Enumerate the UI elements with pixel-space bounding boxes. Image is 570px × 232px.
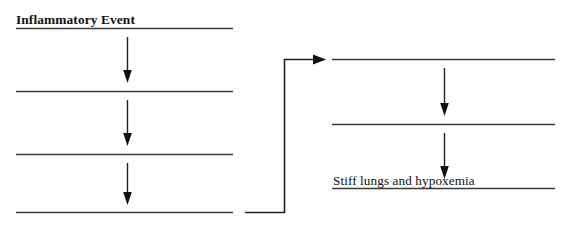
step-7-label: Stiff lungs and hypoxemia (333, 174, 475, 187)
flowchart-diagram: Inflammatory Event Stiff lungs and hypox… (0, 0, 570, 232)
down-arrow-icon-left-1 (123, 37, 132, 83)
down-arrow-icon-left-2 (123, 100, 132, 146)
flowchart-canvas (0, 0, 570, 232)
down-arrow-icon-right-1 (440, 68, 449, 116)
connector-elbow-arrow-icon (245, 55, 326, 213)
step-1-label: Inflammatory Event (16, 13, 135, 26)
down-arrow-icon-left-3 (123, 163, 132, 205)
